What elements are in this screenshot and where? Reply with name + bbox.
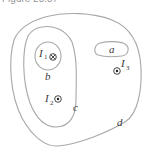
ampere-loop-diagram: a b c d I 1 I 2 I 3 [0, 0, 149, 152]
label-I2-subscript: 2 [50, 99, 54, 107]
current-out-of-page-icon [55, 96, 62, 103]
label-b: b [45, 70, 51, 82]
label-a: a [109, 43, 115, 55]
current-into-page-icon [50, 54, 57, 61]
label-I3-subscript: 3 [126, 64, 130, 72]
label-c: c [73, 101, 78, 113]
label-d: d [117, 116, 123, 128]
label-I1-subscript: 1 [44, 53, 48, 61]
current-out-of-page-icon [114, 68, 121, 75]
